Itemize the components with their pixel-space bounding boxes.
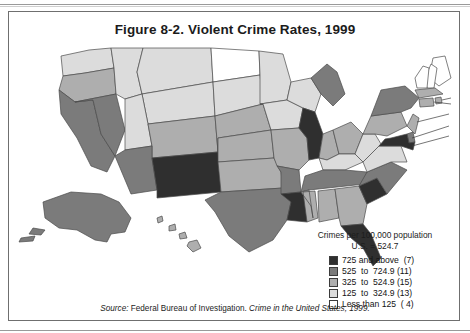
- page-top-rule-secondary: [0, 6, 470, 7]
- legend-label: 325 to 524.9 (15): [342, 277, 412, 287]
- map-region-mn[interactable]: [259, 51, 291, 104]
- map-region-pa[interactable]: [363, 112, 407, 136]
- legend-class-list: 725 and above (7) 525 to 724.9 (11) 325 …: [329, 255, 451, 310]
- figure-title: Figure 8-2. Violent Crime Rates, 1999: [9, 22, 461, 37]
- legend-label: 125 to 324.9 (13): [342, 288, 412, 298]
- map-region-tx[interactable]: [205, 188, 291, 252]
- map-region-ma[interactable]: [415, 88, 443, 98]
- legend-swatch: [329, 289, 338, 298]
- legend-label: 725 and above (7): [342, 255, 414, 265]
- legend-title: Crimes per 100,000 population: [299, 230, 451, 241]
- legend-national-rate: U.S. = 524.7: [299, 241, 451, 252]
- figure-container: Figure 8-2. Violent Crime Rates, 1999: [8, 11, 460, 321]
- map-region-ok[interactable]: [218, 158, 283, 192]
- map-region-nm[interactable]: [152, 152, 221, 198]
- legend-item[interactable]: 525 to 724.9 (11): [329, 266, 451, 277]
- legend-swatch: [329, 256, 338, 265]
- page-bottom-rule: [0, 330, 470, 331]
- map-region-az[interactable]: [115, 146, 157, 194]
- source-note: Source: Federal Bureau of Investigation.…: [9, 304, 461, 313]
- map-legend: Crimes per 100,000 population U.S. = 524…: [299, 230, 451, 310]
- map-region-nj[interactable]: [407, 114, 419, 134]
- map-region-ny[interactable]: [371, 86, 419, 116]
- figure-page: Figure 8-2. Violent Crime Rates, 1999: [0, 0, 470, 333]
- legend-item[interactable]: 125 to 324.9 (13): [329, 288, 451, 299]
- source-publication: Crime in the United States, 1999.: [249, 304, 370, 313]
- map-region-ak[interactable]: [19, 192, 131, 242]
- legend-swatch: [329, 267, 338, 276]
- map-region-ct[interactable]: [419, 98, 434, 107]
- map-region-mo[interactable]: [271, 128, 309, 170]
- map-region-vt[interactable]: [415, 66, 429, 88]
- page-top-rule: [0, 4, 470, 5]
- legend-label: 525 to 724.9 (11): [342, 266, 412, 276]
- legend-item[interactable]: 325 to 524.9 (15): [329, 277, 451, 288]
- map-region-hi[interactable]: [157, 216, 201, 252]
- source-body: Federal Bureau of Investigation.: [128, 304, 249, 313]
- legend-swatch: [329, 278, 338, 287]
- legend-item[interactable]: 725 and above (7): [329, 255, 451, 266]
- source-prefix: Source:: [100, 304, 128, 313]
